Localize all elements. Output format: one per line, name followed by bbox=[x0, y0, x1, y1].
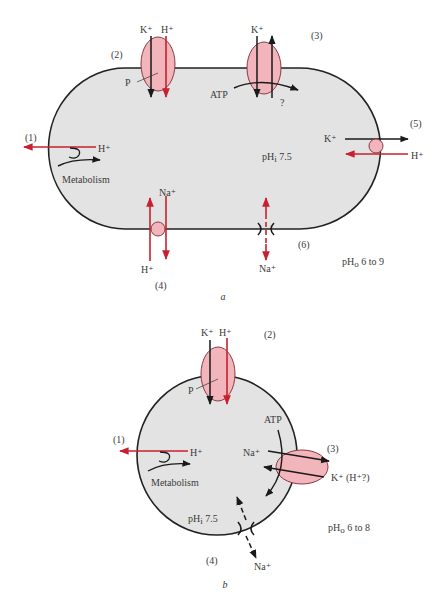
na-plus-label: Na⁺ bbox=[243, 447, 260, 458]
na-plus-label: Na⁺ bbox=[259, 263, 276, 274]
h-plus-label: H⁺ bbox=[161, 24, 174, 35]
system-number-5: (5) bbox=[410, 118, 422, 130]
atp-label: ATP bbox=[264, 414, 282, 425]
system-number-4: (4) bbox=[206, 555, 218, 567]
k-plus-label: K⁺ bbox=[140, 24, 153, 35]
h-plus-label: H⁺ bbox=[190, 447, 203, 458]
panel-b-caption: b bbox=[223, 579, 228, 590]
atp-label: ATP bbox=[210, 89, 228, 100]
k-plus-label: K⁺ bbox=[251, 24, 264, 35]
bacterial-ion-transport-diagram: K⁺ H⁺ (2) P K⁺ (3) ATP ? (1) H⁺ Metaboli… bbox=[0, 0, 445, 602]
question-mark: ? bbox=[280, 97, 285, 108]
system-number-4: (4) bbox=[155, 280, 167, 292]
panel-b: K⁺ H⁺ (2) P (1) H⁺ Metabolism ATP Na⁺ (3… bbox=[113, 327, 370, 590]
p-label: P bbox=[188, 385, 194, 396]
k-plus-h-plus-label: K⁺ (H⁺?) bbox=[331, 472, 370, 484]
extracellular-ph-label: pHo 6 to 8 bbox=[328, 522, 370, 535]
system-number-6: (6) bbox=[298, 239, 310, 251]
k-plus-label: K⁺ bbox=[324, 133, 337, 144]
system-number-3: (3) bbox=[327, 443, 339, 455]
p-label: P bbox=[125, 77, 131, 88]
system-number-1: (1) bbox=[113, 434, 125, 446]
metabolism-label: Metabolism bbox=[62, 174, 110, 185]
h-plus-label: H⁺ bbox=[411, 150, 424, 161]
panel-a-caption: a bbox=[221, 291, 226, 302]
na-plus-label: Na⁺ bbox=[159, 187, 176, 198]
extracellular-ph-label: pHo 6 to 9 bbox=[342, 256, 384, 269]
h-plus-label: H⁺ bbox=[141, 264, 154, 275]
panel-a: K⁺ H⁺ (2) P K⁺ (3) ATP ? (1) H⁺ Metaboli… bbox=[24, 24, 424, 302]
system-number-3: (3) bbox=[311, 30, 323, 42]
k-plus-label: K⁺ bbox=[201, 327, 214, 338]
h-plus-label: H⁺ bbox=[219, 327, 232, 338]
h-plus-label: H⁺ bbox=[98, 143, 111, 154]
system-number-2: (2) bbox=[264, 329, 276, 341]
system-number-2: (2) bbox=[111, 49, 123, 61]
na-plus-label: Na⁺ bbox=[254, 561, 271, 572]
system-number-1: (1) bbox=[25, 132, 37, 144]
metabolism-label: Metabolism bbox=[151, 477, 199, 488]
